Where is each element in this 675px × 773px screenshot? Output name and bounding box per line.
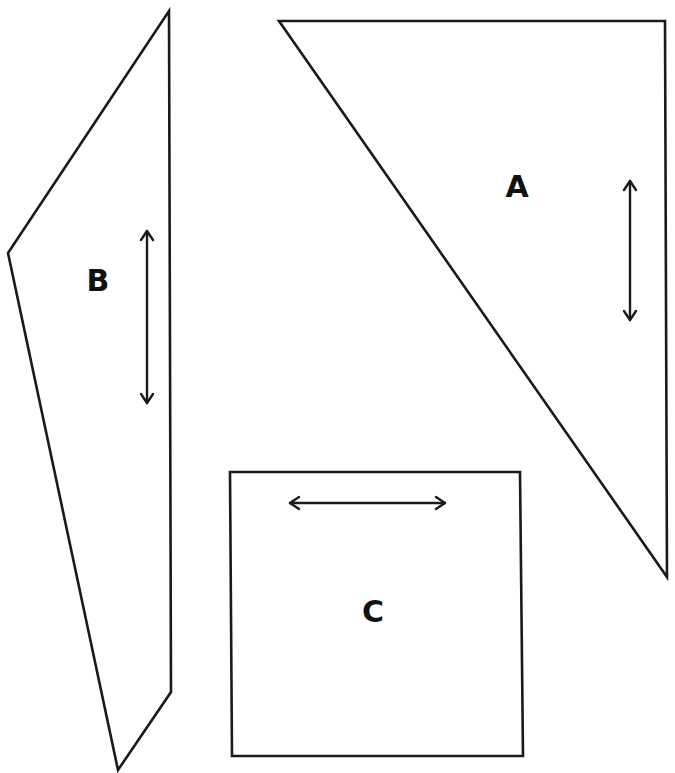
pattern-piece-a: A [279,21,667,577]
piece-b-label: B [87,263,110,298]
pattern-piece-c: C [230,472,523,756]
pattern-diagram: A B C [0,0,675,773]
grainline-arrow-icon [141,231,153,403]
grainline-arrow-icon [624,181,636,320]
piece-a-outline [279,21,667,577]
piece-c-label: C [362,594,384,629]
grainline-arrow-icon [290,497,445,509]
piece-a-label: A [505,169,529,204]
pattern-piece-b: B [8,11,171,770]
